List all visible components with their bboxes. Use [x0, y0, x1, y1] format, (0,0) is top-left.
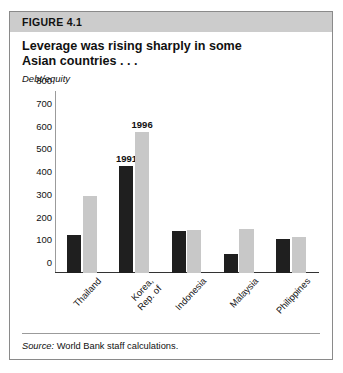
bar-1996: [135, 132, 149, 273]
y-axis-tick-label: 300: [36, 188, 52, 199]
y-axis-tick-label: 400: [36, 166, 52, 177]
figure-header-band: FIGURE 4.1: [10, 12, 332, 32]
bar-1996: [292, 237, 306, 273]
bar-1991: [119, 166, 133, 273]
y-axis-tick-label: 500: [36, 143, 52, 154]
bar-1996: [239, 229, 253, 273]
y-axis-tick-label: 0: [47, 257, 52, 268]
category-label-line: Philippines: [274, 276, 312, 316]
x-axis-category-label: Malaysia: [228, 276, 261, 310]
category-label-line: Indonesia: [173, 276, 208, 313]
source-divider: [22, 333, 320, 334]
bar-group: [56, 91, 108, 273]
x-axis-category-label: Philippines: [274, 276, 312, 316]
bar-1996: [187, 230, 201, 273]
bar-1991: [224, 254, 238, 273]
figure-container: FIGURE 4.1 Leverage was rising sharply i…: [9, 11, 333, 360]
x-axis-category-label: Korea,Rep. of: [128, 276, 164, 312]
figure-title-line-2: Asian countries . . .: [22, 54, 312, 69]
series-annotation-1991: 1991: [116, 153, 137, 164]
x-axis-category-label: Thailand: [72, 276, 104, 309]
source-note: Source: World Bank staff calculations.: [22, 341, 178, 351]
figure-number-label: FIGURE 4.1: [22, 16, 82, 28]
x-axis-category-label: Indonesia: [173, 276, 208, 313]
chart-bars-region: 010020030040050060070080019911996: [56, 91, 317, 273]
y-axis-tick-label: 600: [36, 120, 52, 131]
chart-plot-area: 010020030040050060070080019911996 Thaila…: [21, 87, 321, 287]
bar-group: [160, 91, 212, 273]
category-label-line: Malaysia: [228, 276, 261, 310]
source-text: World Bank staff calculations.: [57, 341, 179, 351]
y-axis-tick-label: 200: [36, 211, 52, 222]
y-axis-tick-label: 800: [36, 75, 52, 86]
bar-1991: [67, 235, 81, 273]
bar-group: 19911996: [108, 91, 160, 273]
y-axis-tick-label: 700: [36, 97, 52, 108]
figure-title: Leverage was rising sharply in some Asia…: [22, 39, 312, 68]
y-axis-tick-label: 100: [36, 234, 52, 245]
source-prefix: Source:: [22, 341, 54, 351]
bar-1991: [276, 239, 290, 273]
category-label-line: Thailand: [72, 276, 104, 309]
series-annotation-1996: 1996: [132, 119, 153, 130]
bar-1991: [172, 231, 186, 273]
bar-1996: [83, 196, 97, 273]
bar-group: [265, 91, 317, 273]
bar-group: [213, 91, 265, 273]
figure-title-line-1: Leverage was rising sharply in some: [22, 39, 312, 54]
